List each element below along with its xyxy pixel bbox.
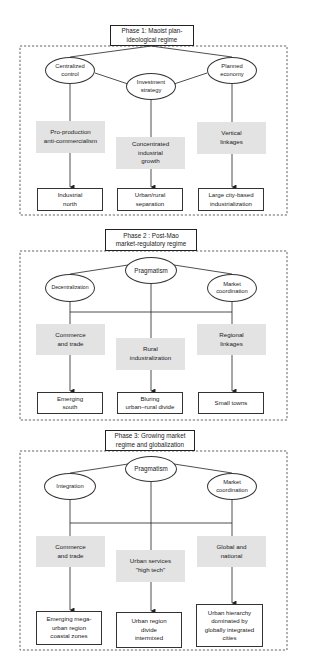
phase-2-mechanism-commerce-trade: Commerce and trade <box>36 324 105 355</box>
phase-3-mechanism-global-national: Global and national <box>197 536 266 567</box>
phase-3-driver-market-coordination: Market coordination <box>207 473 257 500</box>
phase-1-outcome-urban-rural-separation: Urban/rural separation <box>117 188 183 211</box>
phase-1-outcome-industrial-north: Industrial north <box>37 188 103 211</box>
phase-1-driver-planned-economy: Planned economy <box>207 57 257 84</box>
phase-2-driver-decentralization: Decentralization <box>45 274 95 302</box>
phase-2-driver-pragmatism: Pragmatism <box>125 257 177 284</box>
phase-2-title: Phase 2 : Post-Mao market-regulatory reg… <box>105 229 197 251</box>
phase-1-outcome-large-city-industrialization: Large city-based industrialization <box>198 188 264 211</box>
phase-2-mechanism-regional-linkages: Regional linkages <box>197 324 266 355</box>
phase-3-outcome-mega-urban-region: Emerging mega- urban region coastal zone… <box>36 611 102 645</box>
phase-2-outcome-emerging-south: Emerging south <box>37 392 103 414</box>
phase-2-outcome-small-towns: Small towns <box>198 392 264 414</box>
phase-1-driver-centralized-control: Centralized control <box>45 57 95 84</box>
phase-1-driver-investment-strategy: Investment strategy <box>126 73 176 100</box>
phase-3-mechanism-commerce-trade: Commerce and trade <box>36 536 105 567</box>
phase-3-outcome-urban-hierarchy: Urban hierarchy dominated by globally in… <box>196 604 263 647</box>
phase-1-title: Phase 1: Maoist plan- ideological regime <box>110 25 194 46</box>
phase-3-title: Phase 3: Growing market regime and globa… <box>105 430 195 451</box>
phase-3-driver-integration: Integration <box>44 473 96 500</box>
phase-3-driver-pragmatism: Pragmatism <box>125 456 177 482</box>
phase-1-mechanism-vertical-linkages: Vertical linkages <box>197 122 266 154</box>
phase-2-driver-market-coordination: Market coordination <box>207 274 257 302</box>
phase-1-mechanism-concentrated-growth: Concentrated industrial growth <box>116 137 185 169</box>
phase-3-mechanism-urban-services: Urban services "high tech" <box>116 550 185 582</box>
phase-3-outcome-urban-region-intermixed: Urban region divide intermixed <box>116 612 182 648</box>
phase-1-mechanism-pro-production: Pro-production anti-commercialism <box>36 121 105 153</box>
phase-2-outcome-blurring-divide: Bluring urban–rural divide <box>117 392 183 414</box>
phase-2-mechanism-rural-industrialization: Rural industralization <box>116 338 185 370</box>
